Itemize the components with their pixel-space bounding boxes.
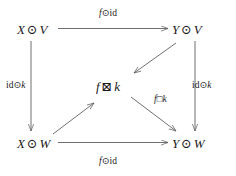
node-top-right-var1: Y <box>172 22 180 37</box>
edge-label-top-operator: ⊙ <box>102 8 110 18</box>
node-center-operator: ⊠ <box>100 79 114 94</box>
edge-label-right: id⊙k <box>192 79 212 90</box>
edge-label-bottom-operator: ⊙ <box>102 156 110 166</box>
node-top-right-operator: ⊙ <box>180 22 194 37</box>
arrow-topright-to-center <box>134 43 176 73</box>
node-bottom-right-var2: W <box>194 136 205 151</box>
edge-label-top: f⊙id <box>99 7 117 18</box>
node-top-right: Y⊙V <box>172 22 202 38</box>
node-bottom-right-var1: Y <box>172 136 180 151</box>
node-top-left-var2: V <box>39 22 47 37</box>
node-bottom-left-var2: W <box>39 136 50 151</box>
edge-label-left-var: k <box>21 80 25 90</box>
node-top-left-var1: X <box>17 22 25 37</box>
node-bottom-left: X⊙W <box>17 136 51 152</box>
edge-label-center-to-bottomright: f□k <box>154 94 167 104</box>
arrow-bottomleft-to-center <box>53 103 94 134</box>
node-top-right-var2: V <box>194 22 202 37</box>
node-center: f⊠k <box>96 79 120 95</box>
edge-label-fboxk-var2: k <box>162 94 166 104</box>
edge-label-left: id⊙k <box>6 79 26 90</box>
node-top-left: X⊙V <box>17 22 48 38</box>
edge-label-right-var: k <box>207 80 211 90</box>
node-bottom-right: Y⊙W <box>172 136 205 152</box>
commutative-diagram: X⊙V Y⊙V f⊠k X⊙W Y⊙W f⊙id f⊙id id⊙k id⊙k … <box>0 0 236 176</box>
node-bottom-left-operator: ⊙ <box>25 136 39 151</box>
edge-label-bottom: f⊙id <box>99 155 117 166</box>
edge-label-bottom-id: id <box>110 156 117 166</box>
node-bottom-right-operator: ⊙ <box>180 136 194 151</box>
node-top-left-operator: ⊙ <box>25 22 39 37</box>
node-center-var2: k <box>114 79 120 94</box>
node-bottom-left-var1: X <box>17 136 25 151</box>
edge-label-top-id: id <box>110 8 117 18</box>
